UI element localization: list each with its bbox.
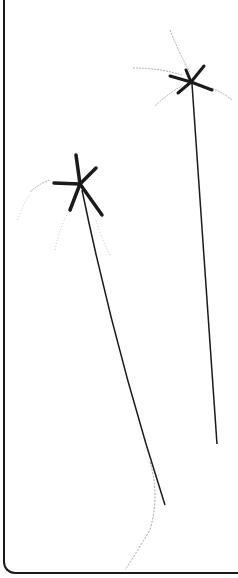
- upper-plant: [133, 30, 232, 444]
- botanical-illustration: [0, 0, 238, 578]
- lower-plant: [18, 155, 165, 570]
